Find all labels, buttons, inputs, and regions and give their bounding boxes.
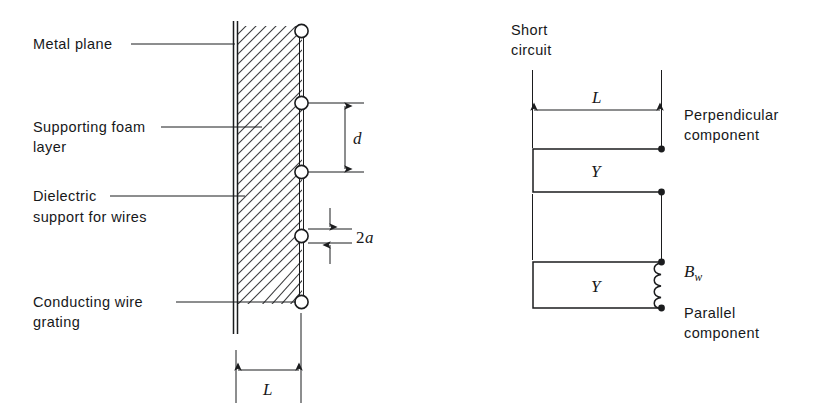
label-perpendicular: Perpendicular <box>684 107 779 123</box>
dimension-L-left: L <box>236 313 301 403</box>
admittance-parallel-label: Y <box>591 277 602 296</box>
dimension-L-left-label: L <box>262 380 272 399</box>
dimension-L-right-label: L <box>591 88 601 107</box>
dimension-d: d <box>308 103 364 172</box>
wire-circle <box>295 165 308 178</box>
admittance-perpendicular-label: Y <box>591 162 602 181</box>
wire-circle <box>295 24 308 37</box>
label-short: Short <box>511 22 548 38</box>
label-supporting-layer: layer <box>33 139 66 155</box>
wire-susceptance-label: Bw <box>684 262 702 283</box>
label-conducting-wire-2: grating <box>33 314 80 330</box>
label-conducting-wire: Conducting wire <box>33 294 143 310</box>
label-supporting-foam: Supporting foam <box>33 119 145 135</box>
terminal-dot <box>658 259 665 266</box>
label-parallel: Parallel <box>684 305 736 321</box>
dimension-L-right: L <box>534 88 660 110</box>
label-circuit: circuit <box>511 42 552 58</box>
perpendicular-stub: Y <box>533 146 665 196</box>
terminal-dot <box>658 146 665 153</box>
label-parallel-2: component <box>684 325 759 341</box>
label-dielectric: Dielectric <box>33 188 97 204</box>
wire-circle <box>295 229 308 242</box>
figure-container: Metal plane Supporting foam layer Dielec… <box>0 0 839 420</box>
wire-circle <box>295 295 308 308</box>
label-metal-plane: Metal plane <box>33 36 112 52</box>
inductor-coil <box>654 263 661 309</box>
dimension-d-label: d <box>353 129 362 148</box>
label-perpendicular-2: component <box>684 127 759 143</box>
terminal-dot <box>658 189 665 196</box>
dimension-2a: 2a <box>308 208 374 264</box>
dimension-2a-label: 2a <box>356 228 374 247</box>
parallel-stub: Y Bw <box>533 259 702 312</box>
figure-svg: Metal plane Supporting foam layer Dielec… <box>0 0 839 420</box>
metal-plane-line <box>234 21 238 334</box>
label-dielectric-2: support for wires <box>33 209 147 225</box>
wire-circle <box>295 96 308 109</box>
